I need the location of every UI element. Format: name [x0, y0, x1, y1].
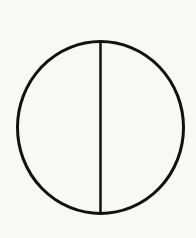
diagram-canvas	[0, 0, 196, 238]
paper-background	[0, 0, 196, 238]
